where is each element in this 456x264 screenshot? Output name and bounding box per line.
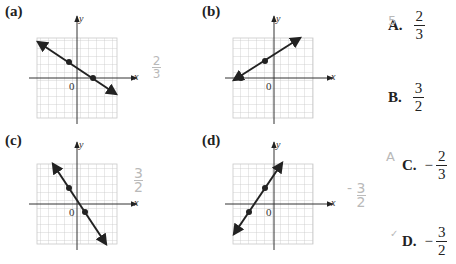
graph-b <box>225 16 333 124</box>
choice-c-sign: − <box>425 157 433 174</box>
choice-c[interactable]: C. − 2 3 <box>402 148 448 183</box>
graph-b-origin: 0 <box>266 80 272 92</box>
choice-b[interactable]: B. 3 2 <box>388 80 424 115</box>
graph-d-origin: 0 <box>266 206 272 218</box>
choice-c-letter: C. <box>402 157 417 174</box>
handwritten-note-a: 23 <box>152 55 161 80</box>
graph-a-y-label: y <box>79 13 83 24</box>
graph-d-x-label: x <box>331 197 335 208</box>
graph-c-x-label: x <box>134 197 138 208</box>
choice-d-fraction: 3 2 <box>436 224 448 259</box>
graph-a-x-label: x <box>134 71 138 82</box>
handwritten-mark-c: A <box>386 149 395 164</box>
choice-d[interactable]: D. − 3 2 <box>402 224 448 259</box>
handwritten-note-c: 32 <box>134 165 143 194</box>
graph-a-origin: 0 <box>69 80 75 92</box>
handwritten-mark-d: ✓ <box>390 228 398 239</box>
graph-c-origin: 0 <box>69 206 75 218</box>
graph-c-y-label: y <box>79 139 83 150</box>
choice-b-letter: B. <box>388 89 402 106</box>
graph-a <box>29 16 137 124</box>
graph-b-x-label: x <box>331 71 335 82</box>
graph-d <box>225 142 333 250</box>
graph-b-y-label: y <box>276 13 280 24</box>
handwritten-mark-a: 5 <box>388 13 396 28</box>
choice-d-letter: D. <box>402 233 417 250</box>
graph-c <box>29 142 137 250</box>
choice-b-fraction: 3 2 <box>413 80 425 115</box>
graph-d-y-label: y <box>276 139 280 150</box>
handwritten-note-d: - 32 <box>347 180 366 209</box>
choice-d-sign: − <box>425 233 433 250</box>
choice-c-fraction: 2 3 <box>436 148 448 183</box>
choice-a-fraction: 2 3 <box>414 8 426 43</box>
